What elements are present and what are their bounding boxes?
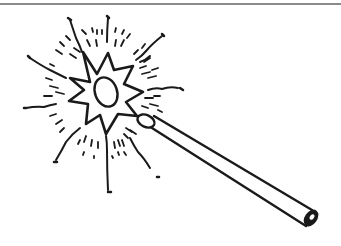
wand — [135, 112, 319, 228]
magic-wand-illustration — [0, 0, 341, 246]
wand-tip-bulb — [135, 112, 156, 130]
